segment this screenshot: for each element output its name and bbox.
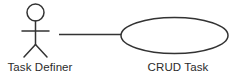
actor-label: Task Definer <box>0 61 80 74</box>
actor-stick-figure-icon[interactable] <box>22 4 49 57</box>
actor-left-leg-line <box>24 45 36 58</box>
use-case-label: CRUD Task <box>132 61 224 74</box>
use-case-diagram-canvas: Task Definer CRUD Task <box>0 0 240 81</box>
use-case-ellipse[interactable] <box>121 18 228 54</box>
actor-head-icon <box>27 4 44 21</box>
actor-right-leg-line <box>36 45 48 58</box>
